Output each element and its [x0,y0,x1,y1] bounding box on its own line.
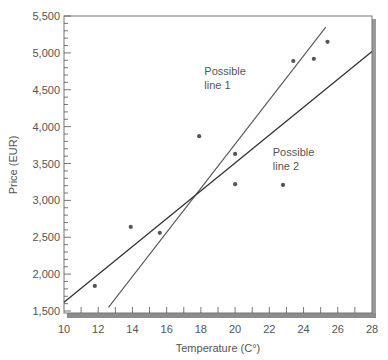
data-point [233,152,237,156]
x-tick-label: 12 [92,323,104,335]
x-axis-title: Temperature (C°) [176,342,260,354]
x-tick-label: 26 [332,323,344,335]
data-point [233,182,237,186]
x-axis-tick-labels: 10121416182022242628 [58,323,378,335]
y-tick-label: 2,000 [32,268,60,280]
data-point [197,134,201,138]
y-tick-label: 3,000 [32,194,60,206]
y-tick-label: 4,000 [32,121,60,133]
x-tick-label: 24 [297,323,309,335]
data-point [312,57,316,61]
y-axis-title: Price (EUR) [7,136,19,195]
y-tick-label: 2,500 [32,231,60,243]
y-tick-label: 5,500 [32,10,60,22]
data-point [129,225,133,229]
y-tick-label: 1,500 [32,305,60,317]
plot-frame [64,16,372,313]
scatter-chart: 1,5002,0002,5003,0003,5004,0004,5005,000… [0,0,388,360]
y-tick-label: 3,500 [32,158,60,170]
data-point [291,59,295,63]
x-tick-label: 14 [126,323,138,335]
chart-canvas: 1,5002,0002,5003,0003,5004,0004,5005,000… [0,0,388,360]
y-tick-label: 5,000 [32,47,60,59]
data-point [158,231,162,235]
data-point [281,183,285,187]
y-axis-tick-labels: 1,5002,0002,5003,0003,5004,0004,5005,000… [32,10,60,317]
data-point [325,40,329,44]
x-tick-label: 18 [195,323,207,335]
y-tick-label: 4,500 [32,84,60,96]
x-tick-label: 10 [58,323,70,335]
x-tick-label: 22 [263,323,275,335]
data-point [93,284,97,288]
x-tick-label: 16 [161,323,173,335]
x-tick-label: 20 [229,323,241,335]
x-tick-label: 28 [366,323,378,335]
